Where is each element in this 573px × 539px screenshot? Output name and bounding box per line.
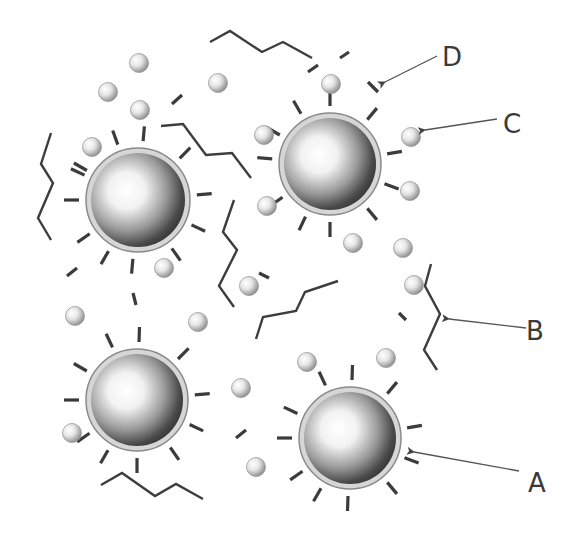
small-sphere: [377, 349, 396, 368]
surface-ligand: [387, 482, 397, 494]
free-ligand: [133, 293, 136, 305]
nanoparticle-diagram: ABCD: [0, 0, 573, 539]
chain-molecule: [38, 133, 53, 240]
chain-molecule: [256, 281, 338, 339]
label-arrow-d: [385, 56, 437, 82]
surface-ligand: [192, 225, 206, 231]
small-sphere: [322, 75, 341, 94]
surface-ligand: [143, 126, 144, 141]
small-sphere: [66, 307, 85, 326]
small-sphere: [99, 83, 118, 102]
surface-ligand: [348, 496, 349, 511]
small-sphere: [209, 74, 228, 93]
free-ligand: [259, 273, 269, 278]
surface-ligand: [290, 471, 302, 480]
free-ligand: [172, 95, 182, 104]
surface-ligand: [284, 407, 298, 413]
label-b: B: [526, 316, 544, 346]
large-particle: [279, 113, 381, 215]
chain-molecule: [219, 200, 237, 307]
label-arrow-b: [449, 319, 526, 328]
small-sphere: [131, 101, 150, 120]
small-sphere: [189, 313, 208, 332]
small-sphere: [344, 234, 363, 253]
free-ligand: [67, 268, 77, 276]
small-sphere: [130, 54, 149, 73]
chain-molecule: [424, 264, 440, 370]
small-sphere: [247, 458, 266, 477]
surface-ligand: [387, 382, 397, 394]
large-particle: [299, 387, 401, 489]
surface-ligand: [190, 425, 204, 431]
free-ligand: [236, 430, 246, 438]
chain-molecule: [101, 473, 203, 499]
small-sphere: [240, 277, 259, 296]
surface-ligand: [387, 151, 402, 154]
small-sphere: [405, 276, 424, 295]
label-a: A: [528, 468, 546, 498]
surface-ligand: [132, 259, 133, 274]
surface-ligand: [77, 234, 89, 243]
surface-ligand: [101, 450, 109, 463]
surface-ligand: [405, 458, 419, 463]
small-sphere: [401, 182, 420, 201]
small-sphere: [63, 424, 82, 443]
surface-ligand: [106, 334, 112, 348]
surface-ligand: [367, 108, 377, 120]
surface-ligand: [197, 194, 212, 195]
surface-ligand: [180, 148, 191, 159]
surface-ligand: [352, 365, 353, 380]
surface-ligand: [74, 364, 87, 372]
label-d: D: [442, 42, 462, 72]
surface-ligand: [367, 208, 377, 220]
small-sphere: [155, 259, 174, 278]
small-sphere: [298, 353, 317, 372]
surface-ligand: [172, 248, 181, 260]
surface-ligand: [294, 101, 302, 114]
free-ligand: [368, 82, 378, 92]
surface-ligand: [314, 488, 322, 501]
small-sphere: [255, 126, 274, 145]
free-ligand: [340, 52, 349, 58]
surface-ligand: [170, 448, 179, 460]
label-c: C: [503, 109, 521, 139]
small-sphere: [232, 379, 251, 398]
surface-ligand: [407, 425, 422, 428]
label-arrow-c: [425, 119, 497, 130]
surface-ligand: [299, 217, 305, 231]
surface-ligand: [113, 131, 118, 145]
large-particle: [86, 349, 188, 451]
small-sphere: [83, 138, 102, 157]
surface-ligand: [195, 394, 210, 395]
surface-ligand: [178, 348, 189, 359]
small-sphere: [402, 128, 421, 147]
surface-ligand: [385, 184, 399, 189]
surface-ligand: [319, 372, 325, 386]
surface-ligand: [101, 251, 109, 264]
labels: ABCD: [385, 42, 546, 498]
free-ligand: [308, 65, 318, 72]
free-ligand: [399, 313, 406, 320]
small-sphere: [394, 239, 413, 258]
large-particle: [86, 148, 190, 252]
surface-ligand: [139, 327, 140, 342]
small-sphere: [258, 197, 277, 216]
label-arrow-a: [414, 452, 519, 471]
chain-molecule: [210, 31, 312, 58]
surface-ligand: [257, 158, 272, 159]
